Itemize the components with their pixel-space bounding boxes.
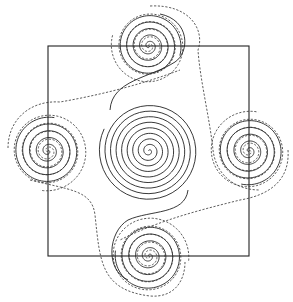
spiral-right-dashed-arm [211, 111, 282, 186]
spiral-top-dashed-arm [111, 14, 182, 82]
connector-center-to-bottom-solid [112, 190, 188, 280]
spiral-top-solid-arm [120, 16, 181, 74]
spiral-right-solid-arm [220, 121, 281, 185]
spirals-group [14, 14, 283, 290]
spiral-square-diagram [0, 0, 293, 302]
spiral-center [99, 106, 195, 200]
connector-left-to-top-dashed [8, 70, 180, 148]
